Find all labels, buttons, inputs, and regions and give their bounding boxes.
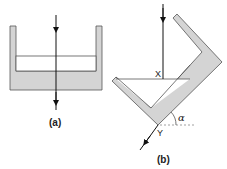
angle-arc [171,112,176,125]
diagram-stage: (a) X Y α (b) [0,0,227,169]
caption-a: (a) [49,117,61,128]
label-alpha: α [178,112,185,123]
panel-b: X Y α (b) [112,4,222,165]
label-x: X [155,69,161,79]
label-y: Y [157,128,163,138]
container-b [112,14,222,125]
caption-b: (b) [157,154,170,165]
panel-a: (a) [10,15,102,128]
